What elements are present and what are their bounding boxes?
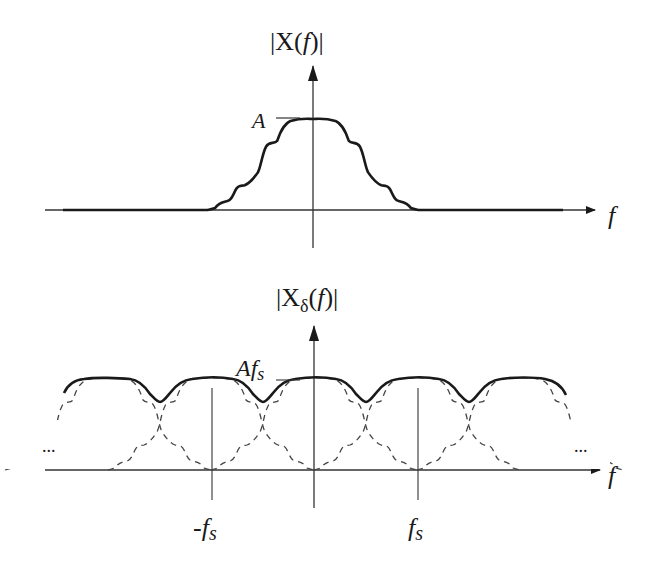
top-title: |X(f)| bbox=[270, 27, 324, 56]
top-peak-label: A bbox=[250, 108, 266, 133]
tick-label-neg-fs: -fs bbox=[193, 513, 217, 544]
left-ellipsis: ... bbox=[42, 436, 56, 456]
top-x-axis-label: f bbox=[608, 201, 619, 230]
bottom-plot: |Xδ(f)| Afs ... ... f -fs fs bbox=[0, 283, 623, 544]
bottom-x-axis-label: f bbox=[608, 461, 619, 490]
sampling-spectrum-diagram: A |X(f)| f |Xδ(f)| bbox=[0, 0, 654, 577]
right-ellipsis: ... bbox=[574, 436, 588, 456]
bottom-peak-label: Afs bbox=[234, 355, 264, 384]
bottom-title: |Xδ(f)| bbox=[276, 283, 338, 316]
top-plot: A |X(f)| f bbox=[45, 27, 619, 248]
tick-label-pos-fs: fs bbox=[408, 513, 423, 544]
